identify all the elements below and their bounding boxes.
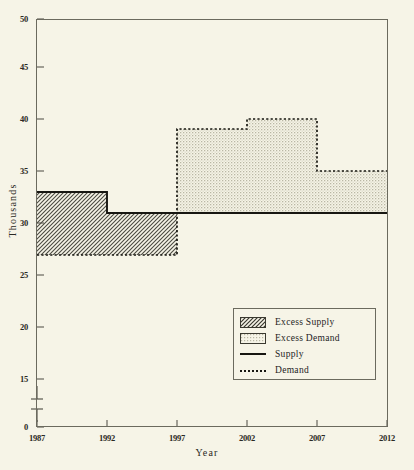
- legend-item-demand: Demand: [240, 362, 375, 378]
- x-tick-label: 2002: [225, 433, 269, 443]
- legend-label: Demand: [275, 365, 309, 375]
- legend-label: Supply: [275, 349, 304, 359]
- y-tick-label: 0: [2, 422, 28, 432]
- x-tick-label: 2007: [295, 433, 339, 443]
- legend-item-supply: Supply: [240, 346, 375, 362]
- legend-swatch-solid-line: [240, 353, 266, 355]
- legend-swatch-dotted-line: [240, 369, 266, 372]
- x-tick-label: 1997: [155, 433, 199, 443]
- y-tick-label: 50: [2, 14, 28, 24]
- y-axis-title: Thousands: [7, 166, 18, 256]
- legend-label: Excess Supply: [275, 317, 335, 327]
- legend-item-excess-demand: Excess Demand: [240, 330, 375, 346]
- y-tick-label: 25: [2, 270, 28, 280]
- y-tick-label: 40: [2, 114, 28, 124]
- legend-item-excess-supply: Excess Supply: [240, 314, 375, 330]
- x-axis-title: Year: [0, 447, 414, 458]
- legend-label: Excess Demand: [275, 333, 340, 343]
- legend-swatch-dot: [240, 333, 266, 344]
- chart-legend: Excess Supply Excess Demand Supply Deman…: [233, 308, 376, 380]
- legend-swatch-hatch: [240, 317, 266, 328]
- y-tick-label: 45: [2, 62, 28, 72]
- y-tick-label: 20: [2, 322, 28, 332]
- y-tick-label: 15: [2, 374, 28, 384]
- chart-container: 50 45 40 35 30 25 20 15 0 1987 1992 1997…: [0, 0, 414, 470]
- x-tick-label: 1987: [15, 433, 59, 443]
- x-tick-label: 1992: [85, 433, 129, 443]
- x-tick-label: 2012: [365, 433, 409, 443]
